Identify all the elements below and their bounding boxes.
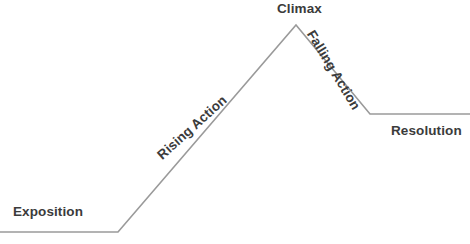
label-exposition: Exposition (13, 205, 83, 219)
plot-diagram-canvas: Exposition Rising Action Climax Falling … (0, 0, 470, 244)
label-resolution: Resolution (391, 124, 462, 138)
label-climax: Climax (277, 2, 322, 16)
